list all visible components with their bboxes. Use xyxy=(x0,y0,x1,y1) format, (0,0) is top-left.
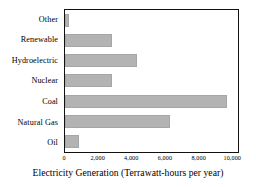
bar-nuclear xyxy=(65,74,112,87)
x-axis-tick-2000: 2,000 xyxy=(90,154,104,162)
y-axis-label-hydroelectric: Hydroelectric xyxy=(12,56,61,65)
y-axis-label-coal: Coal xyxy=(42,97,61,106)
bar-row xyxy=(65,115,238,128)
bar-hydroelectric xyxy=(65,54,137,67)
bar-row xyxy=(65,54,238,67)
y-axis-label-other: Other xyxy=(39,15,61,24)
x-axis-title: Electricity Generation (Terrawatt-hours … xyxy=(0,166,256,179)
bar-oil xyxy=(65,135,79,148)
x-axis-tick-0: 0 xyxy=(62,154,65,162)
x-axis-tick-labels: 02,0004,0006,0008,00010,000 xyxy=(64,154,239,165)
bar-series xyxy=(65,10,238,152)
x-axis-tick-8000: 8,000 xyxy=(191,154,205,162)
bar-row xyxy=(65,74,238,87)
bar-row xyxy=(65,14,238,27)
bar-row xyxy=(65,34,238,47)
y-axis-label-renewable: Renewable xyxy=(21,35,61,44)
y-axis-category-labels: Other Renewable Hydroelectric Nuclear Co… xyxy=(0,9,61,153)
bar-row xyxy=(65,135,238,148)
x-axis-tick-4000: 4,000 xyxy=(124,154,138,162)
plot-area xyxy=(64,9,239,153)
x-axis-tick-10000: 10,000 xyxy=(223,154,241,162)
x-axis-tick-6000: 6,000 xyxy=(158,154,172,162)
bar-natural-gas xyxy=(65,115,170,128)
bar-renewable xyxy=(65,34,112,47)
bar-row xyxy=(65,95,238,108)
bar-other xyxy=(65,14,69,27)
y-axis-label-natural-gas: Natural Gas xyxy=(18,118,61,127)
bar-chart: Other Renewable Hydroelectric Nuclear Co… xyxy=(0,0,256,187)
y-axis-label-oil: Oil xyxy=(47,138,61,147)
bar-coal xyxy=(65,95,227,108)
y-axis-label-nuclear: Nuclear xyxy=(31,76,61,85)
